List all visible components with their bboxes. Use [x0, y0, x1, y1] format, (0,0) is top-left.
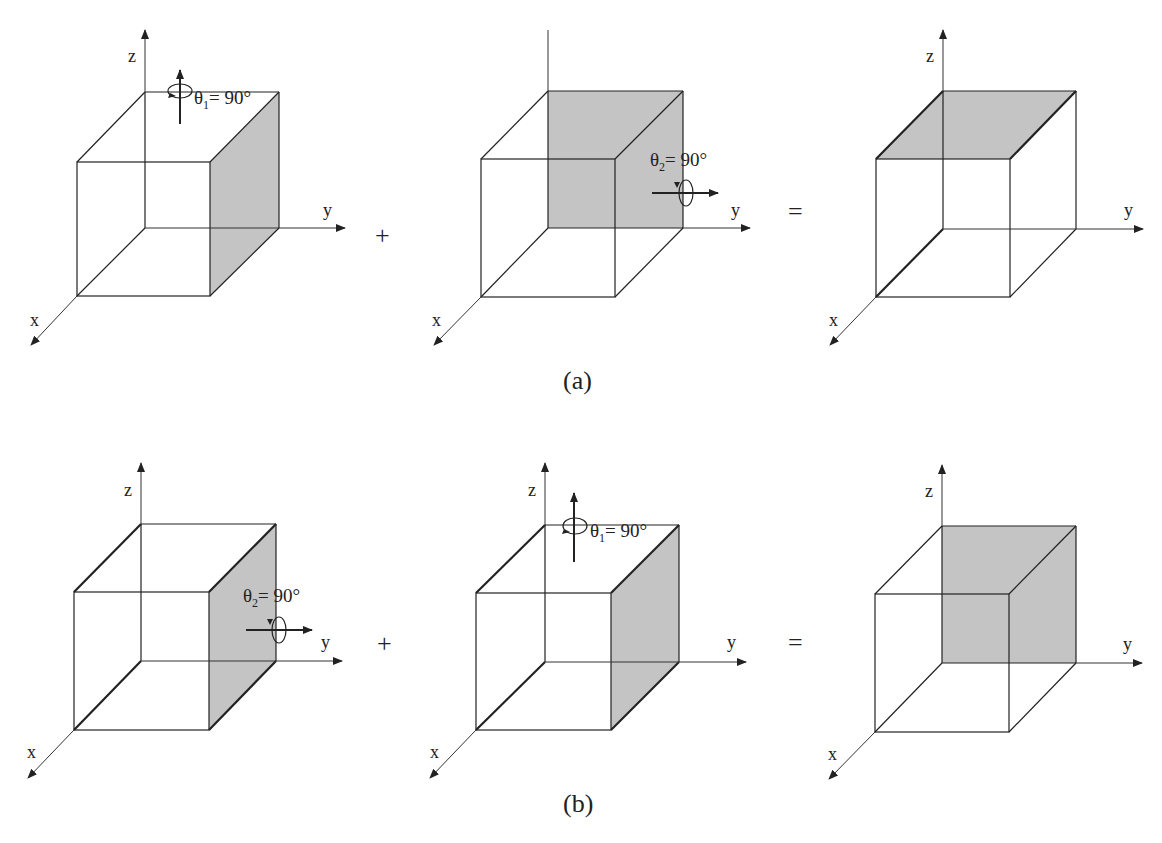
rotation-composition-diagram: z y x θ1= 90° + y x — [0, 0, 1162, 843]
y-label: y — [1123, 634, 1132, 654]
cube-a1: z y x θ1= 90° — [30, 30, 345, 345]
shaded-face — [876, 91, 1076, 159]
x-label: x — [30, 310, 39, 330]
cube-b1: z y x θ2= 90° — [27, 463, 342, 778]
x-axis — [434, 297, 481, 345]
equals-operator: = — [788, 628, 803, 657]
x-label: x — [432, 310, 441, 330]
z-label: z — [925, 481, 933, 501]
y-label: y — [321, 632, 330, 652]
rotation-z-icon — [562, 493, 587, 562]
rotation-z-icon — [168, 70, 192, 124]
cube-b3: z y x — [828, 465, 1142, 779]
z-label: z — [128, 46, 136, 66]
shaded-face — [209, 524, 276, 730]
rotation-label: θ1= 90° — [194, 87, 251, 112]
x-label: x — [829, 310, 838, 330]
z-label: z — [124, 480, 132, 500]
plus-operator: + — [377, 629, 392, 658]
caption-b: (b) — [563, 789, 593, 818]
cube-a2: y x θ2= 90° — [432, 30, 750, 345]
z-label: z — [926, 46, 934, 66]
x-label: x — [430, 742, 439, 762]
y-label: y — [731, 200, 740, 220]
caption-a: (a) — [563, 366, 592, 395]
cube-a3: z y x — [829, 30, 1143, 345]
y-label: y — [727, 632, 736, 652]
equals-operator: = — [788, 197, 803, 226]
shaded-face — [611, 525, 679, 730]
cube-b2: z y x θ1= 90° — [430, 463, 746, 778]
shaded-face — [210, 92, 279, 296]
rotation-label: θ1= 90° — [590, 520, 647, 545]
y-label: y — [1124, 200, 1133, 220]
y-label: y — [323, 200, 332, 220]
x-label: x — [828, 744, 837, 764]
plus-operator: + — [375, 221, 390, 250]
x-label: x — [27, 742, 36, 762]
z-label: z — [528, 480, 536, 500]
